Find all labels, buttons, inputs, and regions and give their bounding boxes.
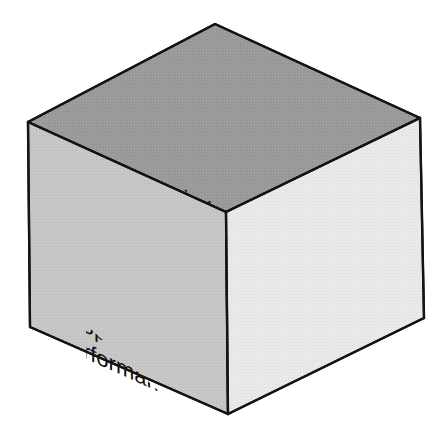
information-quality-cube: Time Timeliness Currency Frequency Time …	[0, 0, 445, 441]
cube-illustration: Time Timeliness Currency Frequency Time …	[0, 0, 445, 441]
